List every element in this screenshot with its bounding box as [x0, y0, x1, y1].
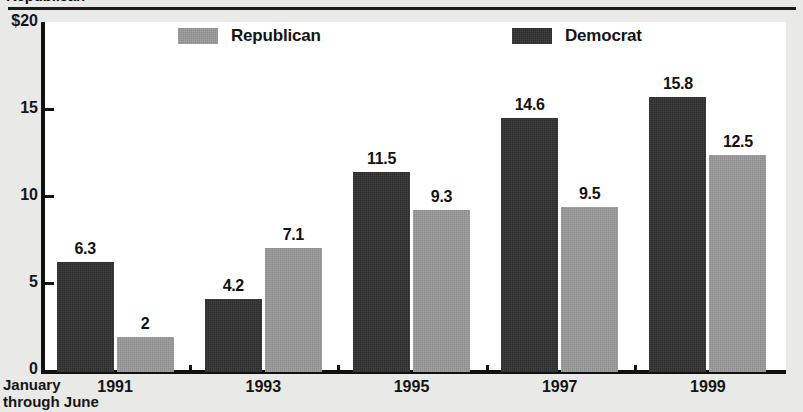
bar-value-1999-democrat: 15.8: [663, 75, 693, 93]
bar-value-1993-democrat: 4.2: [223, 277, 244, 295]
bar-group-1997-democrat: 14.6: [501, 10, 558, 372]
x-label-1995: 1995: [394, 378, 430, 396]
bar-1995-republican: 9.3: [413, 210, 470, 372]
axis-note-line-2: through June: [3, 393, 99, 410]
bar-value-1991-democrat: 6.3: [74, 240, 95, 258]
bar-1997-democrat: 14.6: [501, 118, 558, 372]
x-tick-1: [337, 365, 340, 371]
bar-group-1995-republican: 9.3: [413, 10, 470, 372]
bar-group-1999-republican: 12.5: [709, 10, 766, 372]
bar-value-1991-republican: 2: [141, 315, 150, 333]
x-label-1997: 1997: [542, 378, 578, 396]
bar-value-1997-democrat: 14.6: [515, 96, 545, 114]
bar-group-1991-republican: 2: [117, 10, 174, 372]
bar-1995-democrat: 11.5: [353, 172, 410, 372]
axis-note-line-1: January: [3, 376, 99, 393]
bar-group-1993-republican: 7.1: [265, 10, 322, 372]
bars-layer: 6.324.27.111.59.314.69.515.812.5: [0, 10, 803, 372]
bar-1993-democrat: 4.2: [205, 299, 262, 372]
axis-note: January through June: [3, 376, 99, 410]
bar-chart: 051015$20 RepublicanDemocrat 6.324.27.11…: [0, 10, 803, 412]
x-label-1991: 1991: [97, 378, 133, 396]
x-tick-2: [486, 365, 489, 371]
bar-group-1999-democrat: 15.8: [649, 10, 706, 372]
bar-value-1997-republican: 9.5: [579, 185, 600, 203]
x-label-1999: 1999: [690, 378, 726, 396]
x-label-1993: 1993: [246, 378, 282, 396]
bar-1999-republican: 12.5: [709, 155, 766, 373]
bar-1993-republican: 7.1: [265, 248, 322, 372]
bar-1997-republican: 9.5: [561, 207, 618, 372]
x-tick-3: [634, 365, 637, 371]
bar-value-1995-democrat: 11.5: [367, 150, 396, 168]
bar-group-1997-republican: 9.5: [561, 10, 618, 372]
bar-value-1993-republican: 7.1: [283, 226, 304, 244]
bar-1999-democrat: 15.8: [649, 97, 706, 372]
bar-group-1995-democrat: 11.5: [353, 10, 410, 372]
clipped-headline: Republican: [6, 0, 85, 4]
bar-group-1993-democrat: 4.2: [205, 10, 262, 372]
bar-1991-democrat: 6.3: [57, 262, 114, 372]
bar-value-1999-republican: 12.5: [723, 133, 753, 151]
x-tick-0: [189, 365, 192, 371]
bar-group-1991-democrat: 6.3: [57, 10, 114, 372]
bar-value-1995-republican: 9.3: [431, 188, 452, 206]
bar-1991-republican: 2: [117, 337, 174, 372]
